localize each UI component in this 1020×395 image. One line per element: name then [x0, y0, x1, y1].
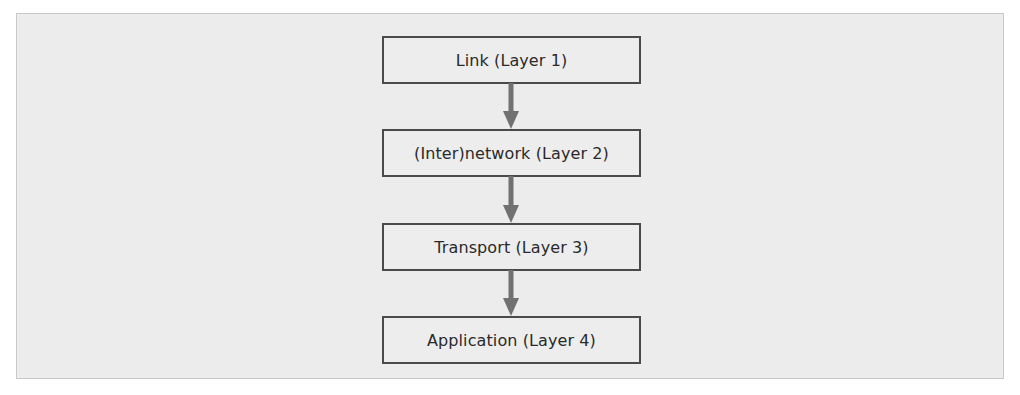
down-arrow-icon — [503, 83, 519, 129]
layer-label: Application (Layer 4) — [427, 331, 596, 350]
down-arrow-icon — [503, 270, 519, 316]
layer-label: (Inter)network (Layer 2) — [414, 144, 609, 163]
layer-label: Link (Layer 1) — [456, 51, 568, 70]
down-arrow-icon — [503, 176, 519, 223]
layer-box-link: Link (Layer 1) — [382, 36, 641, 84]
layer-box-application: Application (Layer 4) — [382, 316, 641, 364]
layer-label: Transport (Layer 3) — [434, 238, 588, 257]
layer-box-internetwork: (Inter)network (Layer 2) — [382, 129, 641, 177]
layer-box-transport: Transport (Layer 3) — [382, 223, 641, 271]
